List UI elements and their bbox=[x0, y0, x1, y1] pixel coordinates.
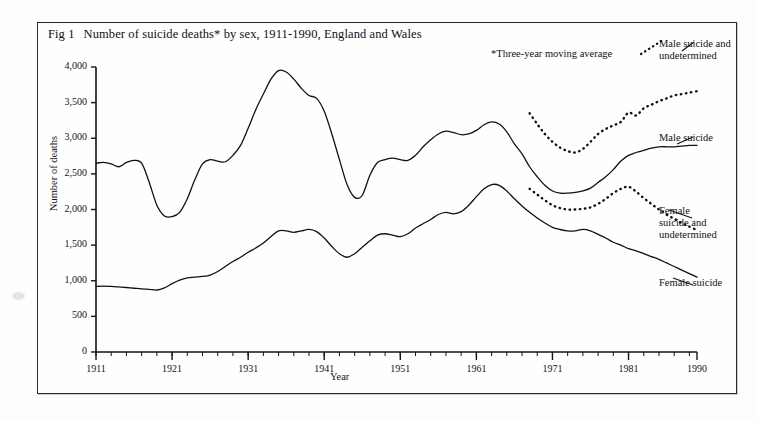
x-tick-label: 1990 bbox=[675, 363, 719, 374]
y-tick-label: 3,000 bbox=[43, 131, 87, 142]
series-label-female-suicide: Female suicide bbox=[659, 277, 722, 289]
x-tick-label: 1971 bbox=[530, 363, 574, 374]
x-axis-major-ticks bbox=[96, 352, 697, 360]
series-line-male-suicide bbox=[96, 70, 697, 217]
chart-series-group bbox=[96, 70, 697, 290]
x-tick-label: 1941 bbox=[302, 363, 346, 374]
paper-speck bbox=[12, 292, 25, 300]
x-tick-label: 1951 bbox=[378, 363, 422, 374]
y-tick-label: 2,500 bbox=[43, 167, 87, 178]
x-tick-label: 1961 bbox=[454, 363, 498, 374]
series-label-line: undetermined bbox=[659, 229, 717, 241]
y-tick-label: 1,500 bbox=[43, 238, 87, 249]
series-label-male-suicide-undetermined: Male suicide and undetermined bbox=[659, 38, 731, 62]
x-tick-label: 1931 bbox=[226, 363, 270, 374]
y-tick-label: 3,500 bbox=[43, 96, 87, 107]
series-label-line: Male suicide and bbox=[659, 38, 731, 50]
series-label-line: undetermined bbox=[659, 50, 731, 62]
x-tick-label: 1921 bbox=[150, 363, 194, 374]
figure-page: Fig 1Number of suicide deaths* by sex, 1… bbox=[0, 0, 757, 421]
series-label-female-suicide-undetermined: Female suicide and undetermined bbox=[659, 205, 717, 241]
y-tick-label: 4,000 bbox=[43, 60, 87, 71]
y-tick-label: 500 bbox=[43, 309, 87, 320]
series-label-male-suicide: Male suicide bbox=[659, 132, 713, 144]
chart-axes bbox=[91, 67, 697, 360]
x-tick-label: 1911 bbox=[74, 363, 118, 374]
x-tick-label: 1981 bbox=[607, 363, 651, 374]
footnote-annotation: *Three-year moving average bbox=[491, 48, 612, 59]
series-label-line: suicide and bbox=[659, 217, 717, 229]
y-tick-label: 1,000 bbox=[43, 274, 87, 285]
y-tick-label: 2,000 bbox=[43, 203, 87, 214]
series-label-line: Female bbox=[659, 205, 717, 217]
y-tick-label: 0 bbox=[43, 345, 87, 356]
label-leader-lines bbox=[641, 40, 694, 285]
chart-plot bbox=[37, 22, 737, 394]
